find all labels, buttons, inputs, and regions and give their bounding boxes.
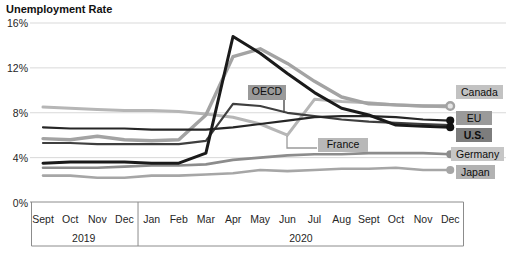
series-label-germany: Germany <box>451 147 504 161</box>
y-axis-tick-4%: 4% <box>0 152 28 164</box>
y-axis-tick-12%: 12% <box>0 62 28 74</box>
x-axis-month-14: Nov <box>414 213 433 225</box>
series-label-canada: Canada <box>456 85 503 99</box>
annotation-label-france: France <box>318 138 368 152</box>
x-axis-month-15: Dec <box>441 213 460 225</box>
x-axis-month-11: Aug <box>332 213 351 225</box>
annotation-leader-france <box>287 136 317 148</box>
x-axis-month-6: Mar <box>197 213 215 225</box>
x-axis-month-2: Nov <box>88 213 107 225</box>
x-axis-month-10: Jul <box>308 213 321 225</box>
x-axis-year-2020: 2020 <box>289 232 312 244</box>
series-label-eu: EU <box>456 111 492 125</box>
y-axis-tick-16%: 16% <box>0 17 28 29</box>
x-axis-month-8: May <box>250 213 270 225</box>
series-line-canada <box>43 49 450 141</box>
annotation-label-oecd: OECD <box>248 85 286 100</box>
x-axis-month-5: Feb <box>170 213 188 225</box>
series-label-japan: Japan <box>456 165 495 179</box>
x-axis-month-9: Jun <box>279 213 296 225</box>
x-axis-year-2019: 2019 <box>72 232 95 244</box>
x-axis-month-3: Dec <box>115 213 134 225</box>
series-label-us: U.S. <box>456 128 492 142</box>
x-axis-month-4: Jan <box>143 213 160 225</box>
x-axis-month-1: Oct <box>62 213 78 225</box>
x-axis-month-0: Sept <box>32 213 54 225</box>
x-axis-month-12: Sept <box>358 213 380 225</box>
y-axis-tick-0%: 0% <box>0 197 28 209</box>
unemployment-rate-chart: Unemployment Rate OECDFrance16%12%8%4%0%… <box>0 0 508 258</box>
series-end-marker-canada <box>446 102 454 110</box>
series-line-japan <box>43 168 450 178</box>
y-axis-tick-8%: 8% <box>0 107 28 119</box>
x-axis-month-13: Oct <box>388 213 404 225</box>
series-end-marker-japan <box>446 166 454 174</box>
x-axis-month-7: Apr <box>225 213 241 225</box>
series-end-marker-us <box>446 123 454 131</box>
series-line-germany <box>43 153 450 168</box>
